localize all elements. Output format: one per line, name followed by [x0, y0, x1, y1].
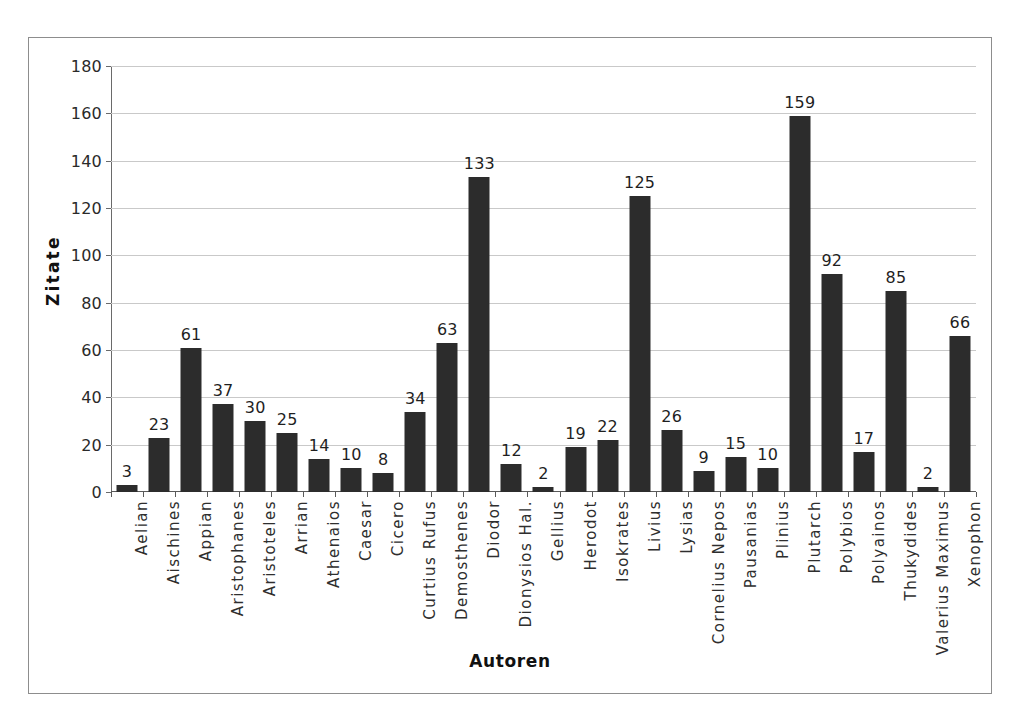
x-tick-mark	[688, 492, 689, 497]
bar[interactable]	[597, 440, 618, 492]
y-tick-label: 180	[71, 57, 102, 76]
bar[interactable]	[853, 452, 874, 492]
bar[interactable]	[373, 473, 394, 492]
x-tick-label: Aelian	[133, 500, 151, 555]
x-tick-label: Caesar	[357, 500, 375, 561]
bar[interactable]	[181, 348, 202, 492]
bar-value-label: 159	[784, 93, 815, 112]
bar-series: 3Aelian23Aischines61Appian37Aristophanes…	[111, 66, 976, 492]
bar[interactable]	[117, 485, 138, 492]
bar-group[interactable]: 3Aelian	[111, 66, 143, 492]
y-tick-label: 60	[81, 341, 102, 360]
bar-group[interactable]: 10Caesar	[335, 66, 367, 492]
bar[interactable]	[629, 196, 650, 492]
x-tick-mark	[560, 492, 561, 497]
x-tick-label: Curtius Rufus	[421, 500, 439, 620]
x-tick-label: Thukydides	[902, 500, 920, 600]
bar-group[interactable]: 85Thukydides	[880, 66, 912, 492]
bar-group[interactable]: 2Gellius	[527, 66, 559, 492]
bar-value-label: 85	[886, 268, 907, 287]
x-tick-mark	[111, 492, 112, 497]
bar-group[interactable]: 10Plinius	[752, 66, 784, 492]
bar-group[interactable]: 37Aristophanes	[207, 66, 239, 492]
bar[interactable]	[149, 438, 170, 492]
bar[interactable]	[405, 412, 426, 492]
y-tick-label: 120	[71, 199, 102, 218]
x-tick-label: Gellius	[549, 500, 567, 561]
bar[interactable]	[533, 487, 554, 492]
x-tick-mark	[495, 492, 496, 497]
x-tick-mark	[752, 492, 753, 497]
bar-group[interactable]: 2Valerius Maximus	[912, 66, 944, 492]
x-tick-mark	[463, 492, 464, 497]
bar-group[interactable]: 8Cicero	[367, 66, 399, 492]
bar-group[interactable]: 23Aischines	[143, 66, 175, 492]
x-tick-mark	[239, 492, 240, 497]
bar[interactable]	[309, 459, 330, 492]
bar-group[interactable]: 61Appian	[175, 66, 207, 492]
x-tick-mark	[656, 492, 657, 497]
bar-group[interactable]: 159Plutarch	[784, 66, 816, 492]
bar-group[interactable]: 17Polyainos	[848, 66, 880, 492]
bar[interactable]	[917, 487, 938, 492]
bar-group[interactable]: 25Arrian	[271, 66, 303, 492]
bar-value-label: 61	[181, 325, 202, 344]
bar-value-label: 92	[821, 251, 842, 270]
bar[interactable]	[213, 404, 234, 492]
x-tick-label: Aristophanes	[229, 500, 247, 616]
bar-group[interactable]: 34Curtius Rufus	[399, 66, 431, 492]
bar-group[interactable]: 92Polybios	[816, 66, 848, 492]
bar-value-label: 14	[309, 436, 330, 455]
bar-value-label: 37	[213, 381, 234, 400]
bar[interactable]	[725, 457, 746, 493]
x-tick-label: Cornelius Nepos	[710, 500, 728, 644]
x-tick-label: Herodot	[582, 500, 600, 571]
y-axis-title: Zitate	[43, 235, 63, 306]
x-tick-mark	[431, 492, 432, 497]
bar-value-label: 2	[538, 464, 548, 483]
bar-group[interactable]: 66Xenophon	[944, 66, 976, 492]
bar[interactable]	[469, 177, 490, 492]
bar-group[interactable]: 9Cornelius Nepos	[688, 66, 720, 492]
bar-value-label: 17	[853, 429, 874, 448]
bar-group[interactable]: 22Isokrates	[592, 66, 624, 492]
bar-group[interactable]: 14Athenaios	[303, 66, 335, 492]
x-tick-label: Athenaios	[325, 500, 343, 588]
bar[interactable]	[661, 430, 682, 492]
bar-value-label: 30	[245, 398, 266, 417]
bar-value-label: 12	[501, 441, 522, 460]
bar[interactable]	[277, 433, 298, 492]
bar[interactable]	[245, 421, 266, 492]
x-tick-label: Dionysios Hal.	[517, 500, 535, 627]
bar[interactable]	[437, 343, 458, 492]
bar-group[interactable]: 63Demosthenes	[431, 66, 463, 492]
y-tick-label: 40	[81, 388, 102, 407]
bar-value-label: 22	[597, 417, 618, 436]
bar-value-label: 23	[149, 415, 170, 434]
bar[interactable]	[565, 447, 586, 492]
y-tick-label: 140	[71, 151, 102, 170]
bar-group[interactable]: 15Pausanias	[720, 66, 752, 492]
x-tick-label: Appian	[197, 500, 215, 561]
bar[interactable]	[821, 274, 842, 492]
bar[interactable]	[341, 468, 362, 492]
bar[interactable]	[501, 464, 522, 492]
x-tick-mark	[175, 492, 176, 497]
bar-group[interactable]: 30Aristoteles	[239, 66, 271, 492]
bar[interactable]	[949, 336, 970, 492]
y-tick-label: 80	[81, 293, 102, 312]
bar-group[interactable]: 26Lysias	[656, 66, 688, 492]
bar-value-label: 10	[341, 445, 362, 464]
bar-group[interactable]: 12Dionysios Hal.	[495, 66, 527, 492]
bar[interactable]	[693, 471, 714, 492]
bar[interactable]	[757, 468, 778, 492]
bar[interactable]	[885, 291, 906, 492]
bar[interactable]	[789, 116, 810, 492]
x-tick-mark	[816, 492, 817, 497]
bar-group[interactable]: 19Herodot	[560, 66, 592, 492]
x-tick-mark	[271, 492, 272, 497]
bar-group[interactable]: 133Diodor	[463, 66, 495, 492]
bar-group[interactable]: 125Livius	[624, 66, 656, 492]
bar-value-label: 2	[923, 464, 933, 483]
x-tick-label: Aischines	[165, 500, 183, 584]
